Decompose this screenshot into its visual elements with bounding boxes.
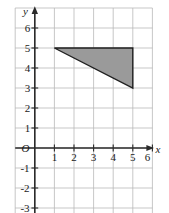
coordinate-plane-figure: y x O 6 5 4 3 2 1 -1 -2 -3 1 2 3 4 5 6 bbox=[0, 0, 169, 213]
x-tick-label-5: 5 bbox=[130, 151, 136, 163]
x-tick-label-2: 2 bbox=[71, 151, 77, 163]
y-tick-label-neg2: -2 bbox=[20, 182, 29, 194]
y-tick-label-5: 5 bbox=[25, 42, 31, 54]
x-tick-label-4: 4 bbox=[110, 151, 116, 163]
y-tick-label-neg3: -3 bbox=[20, 202, 30, 213]
x-axis-label: x bbox=[155, 143, 161, 155]
y-axis bbox=[32, 6, 38, 213]
x-tick-label-6: 6 bbox=[145, 151, 151, 163]
y-tick-label-6: 6 bbox=[25, 22, 31, 34]
y-axis-arrow bbox=[32, 6, 38, 14]
y-tick-label-4: 4 bbox=[25, 62, 31, 74]
y-tick-label-3: 3 bbox=[25, 82, 31, 94]
y-axis-label: y bbox=[22, 5, 28, 17]
y-tick-label-1: 1 bbox=[25, 122, 31, 134]
plot-canvas: y x O 6 5 4 3 2 1 -1 -2 -3 1 2 3 4 5 6 bbox=[0, 0, 169, 213]
grid-vertical-lines bbox=[15, 8, 152, 213]
x-tick-label-3: 3 bbox=[91, 151, 97, 163]
y-tick-label-2: 2 bbox=[25, 102, 31, 114]
x-tick-label-1: 1 bbox=[52, 151, 58, 163]
y-tick-label-neg1: -1 bbox=[20, 162, 29, 174]
origin-label: O bbox=[22, 142, 30, 154]
